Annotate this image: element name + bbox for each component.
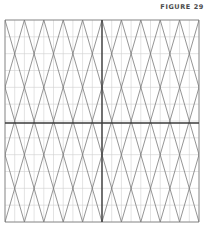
diagonal-line (199, 20, 206, 222)
diagonal-line (0, 20, 5, 222)
isometric-lattice-diagram (0, 0, 206, 229)
diagonal-line (0, 20, 5, 222)
diagonal-line (199, 20, 206, 222)
